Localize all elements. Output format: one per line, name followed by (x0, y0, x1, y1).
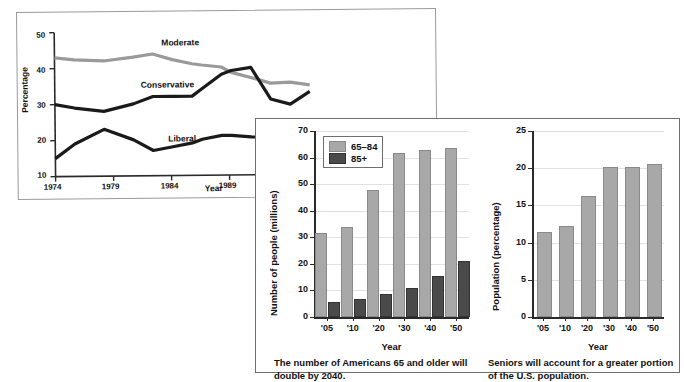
gridline (532, 168, 664, 169)
bar (315, 233, 327, 317)
x-tick-label: '50 (440, 323, 472, 333)
gridline (532, 205, 664, 206)
x-tick-mark (327, 317, 328, 321)
bar (393, 153, 405, 317)
y-tick-label: 30 (284, 231, 308, 241)
seniors-count-caption: The number of Americans 65 and older wil… (274, 356, 479, 382)
bar (354, 299, 366, 317)
y-tick-label: 60 (284, 152, 308, 162)
bar (419, 150, 431, 317)
y-tick-label: 10 (502, 237, 526, 247)
legend-swatch-65-84 (329, 141, 346, 152)
gridline (532, 243, 664, 244)
seniors-percent-plot-area: 0510152025'05'10'20'30'40'50 (532, 131, 664, 317)
x-tick-mark (565, 317, 566, 321)
bar (367, 190, 379, 317)
x-tick-mark (631, 317, 632, 321)
x-axis (314, 317, 469, 319)
legend-row-65-84: 65–84 (329, 140, 377, 152)
y-tick-label: 0 (502, 311, 526, 321)
y-tick-label: 10 (284, 284, 308, 294)
line-series-conservative (55, 67, 310, 112)
bar-charts-panel: Number of people (millions) 010203040506… (255, 118, 680, 373)
gridline (314, 131, 469, 132)
x-axis (532, 317, 664, 319)
bar (328, 302, 340, 317)
bar (380, 294, 392, 317)
seniors-percent-chart: Population (percentage) 0510152025'05'10… (480, 119, 679, 372)
seniors-percent-y-axis-title: Population (percentage) (490, 202, 501, 311)
seniors-percent-x-axis-title: Year (532, 341, 664, 352)
x-tick-label: '50 (637, 323, 669, 333)
bar (458, 261, 470, 317)
x-tick-mark (653, 317, 654, 321)
bar (445, 148, 457, 317)
x-tick-mark (609, 317, 610, 321)
x-tick-mark (456, 317, 457, 321)
seniors-count-legend: 65–84 85+ (323, 136, 383, 168)
y-tick-label: 50 (284, 178, 308, 188)
x-tick-mark (430, 317, 431, 321)
x-tick-mark (379, 317, 380, 321)
y-tick-label: 15 (502, 199, 526, 209)
legend-swatch-85-plus (329, 153, 346, 164)
y-tick-label: 20 (502, 162, 526, 172)
y-tick-label: 20 (284, 258, 308, 268)
y-tick-label: 5 (502, 274, 526, 284)
y-tick-label: 70 (284, 125, 308, 135)
seniors-count-x-axis-title: Year (314, 341, 469, 352)
gridline (532, 280, 664, 281)
x-tick-mark (587, 317, 588, 321)
bar (406, 288, 418, 317)
legend-row-85-plus: 85+ (329, 152, 377, 164)
line-series-moderate (54, 52, 309, 87)
x-tick-mark (353, 317, 354, 321)
seniors-count-y-axis-title: Number of people (millions) (268, 190, 279, 316)
bar (559, 226, 574, 317)
bar (603, 167, 618, 317)
legend-label-85-plus: 85+ (351, 153, 367, 164)
gridline (532, 131, 664, 132)
bar (432, 276, 444, 317)
bar (537, 232, 552, 317)
y-tick-label: 40 (284, 205, 308, 215)
legend-label-65-84: 65–84 (351, 141, 377, 152)
x-tick-mark (404, 317, 405, 321)
seniors-count-chart: Number of people (millions) 010203040506… (256, 119, 480, 372)
bar (341, 227, 353, 317)
bar (647, 164, 662, 317)
bar (625, 167, 640, 317)
y-axis (532, 131, 534, 318)
seniors-percent-caption: Seniors will account for a greater porti… (488, 356, 674, 382)
x-tick-mark (543, 317, 544, 321)
y-tick-label: 25 (502, 125, 526, 135)
bar (581, 196, 596, 317)
y-tick-label: 0 (284, 311, 308, 321)
